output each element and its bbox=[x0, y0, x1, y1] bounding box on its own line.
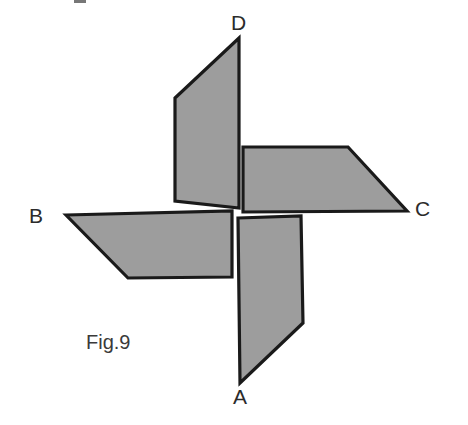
pinwheel-diagram bbox=[0, 0, 468, 425]
vertex-label-b: B bbox=[29, 205, 43, 226]
blade-b bbox=[66, 211, 232, 278]
figure-caption: Fig.9 bbox=[86, 332, 130, 352]
blade-c bbox=[243, 147, 407, 212]
figure-container: D C B A Fig.9 bbox=[0, 0, 468, 425]
vertex-label-d: D bbox=[231, 12, 246, 33]
blade-d bbox=[175, 38, 239, 208]
vertex-label-a: A bbox=[233, 386, 247, 407]
blade-a bbox=[238, 216, 303, 383]
vertex-label-c: C bbox=[415, 198, 430, 219]
